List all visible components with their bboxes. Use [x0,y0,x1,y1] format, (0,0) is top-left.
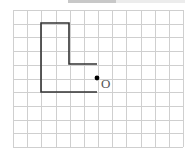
l-shape [41,23,97,92]
point-o-dot [95,76,100,81]
point-o-label: O [101,77,110,90]
grid-diagram [0,0,195,156]
